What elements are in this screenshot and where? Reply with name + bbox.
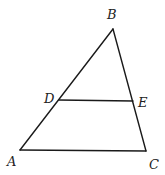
segment-ab [20,29,113,150]
diagram-svg: A B C D E [0,0,165,175]
point-label-d: D [43,91,55,106]
segment-bc [113,29,146,151]
vertex-label-a: A [6,154,16,169]
segment-ac [20,150,146,151]
triangle-diagram: A B C D E [0,0,165,175]
point-label-e: E [137,95,148,110]
segment-de [59,100,133,101]
vertex-label-b: B [106,7,117,22]
vertex-label-c: C [149,157,159,172]
